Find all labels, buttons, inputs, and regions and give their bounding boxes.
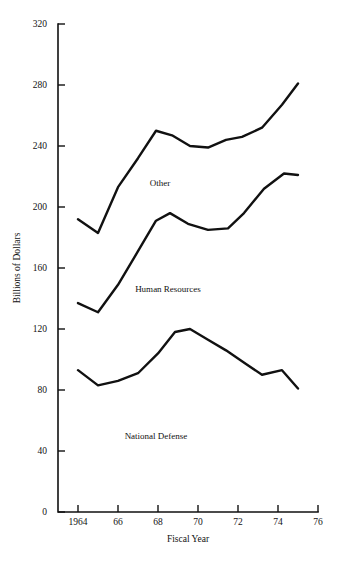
x-tick-label: 74 (273, 517, 283, 527)
chart-axes (58, 24, 318, 512)
y-tick-label: 120 (33, 324, 48, 334)
series-line-national-defense (78, 329, 298, 388)
y-tick-label: 0 (42, 507, 47, 517)
series-label-human-resources: Human Resources (135, 284, 201, 294)
y-tick-label: 320 (33, 19, 48, 29)
x-tick-label: 70 (193, 517, 203, 527)
chart-canvas: 040801201602002402803201964666870727476 … (0, 0, 340, 569)
y-tick-label: 80 (38, 385, 48, 395)
y-tick-label: 280 (33, 80, 48, 90)
x-axis-title: Fiscal Year (167, 534, 210, 544)
y-tick-label: 200 (33, 202, 48, 212)
series-label-national-defense: National Defense (125, 431, 188, 441)
axis-tick-labels: 040801201602002402803201964666870727476 (33, 19, 323, 527)
axis-ticks (58, 24, 318, 512)
axis-lines (58, 24, 318, 512)
data-curves (78, 83, 298, 388)
y-tick-label: 160 (33, 263, 48, 273)
x-tick-label: 66 (113, 517, 123, 527)
y-tick-label: 40 (38, 446, 48, 456)
series-line-other (78, 83, 298, 232)
series-label-other: Other (150, 178, 171, 188)
x-tick-label: 68 (153, 517, 163, 527)
x-tick-label: 72 (233, 517, 243, 527)
x-tick-label: 1964 (69, 517, 88, 527)
y-tick-label: 240 (33, 141, 48, 151)
x-tick-label: 76 (313, 517, 323, 527)
y-axis-title: Billions of Dollars (12, 232, 22, 303)
chart-figure: 040801201602002402803201964666870727476 … (0, 0, 340, 569)
